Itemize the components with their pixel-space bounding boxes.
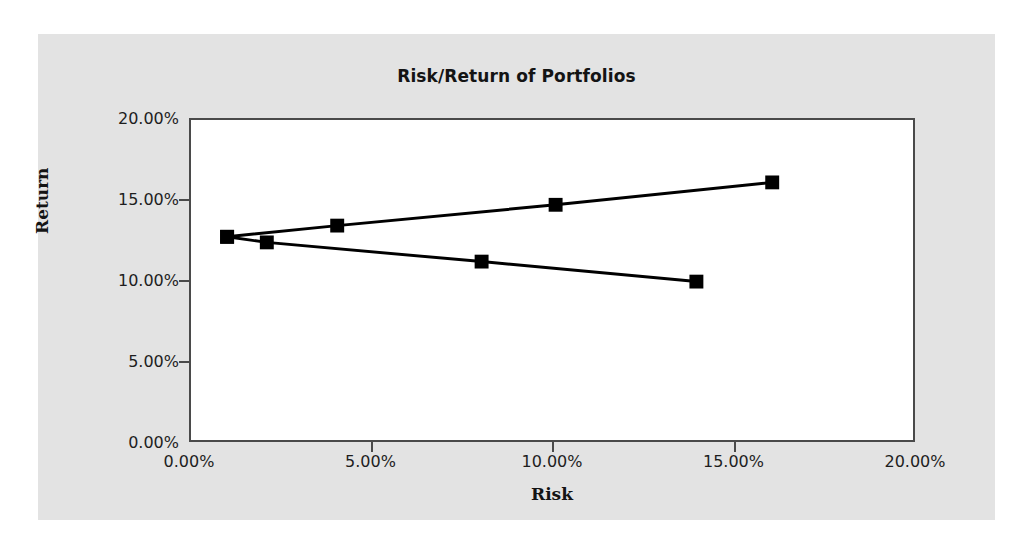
series-line [227,237,696,282]
y-tick-label: 5.00% [128,352,179,371]
data-point-marker [220,230,234,244]
data-point-marker [330,219,344,233]
data-point-marker [260,235,274,249]
x-tick-mark [734,442,736,452]
y-tick-label: 10.00% [118,271,179,290]
y-tick-mark [179,280,189,282]
x-tick-label: 20.00% [884,452,945,471]
data-series [220,230,703,289]
x-tick-label: 10.00% [521,452,582,471]
y-tick-label: 15.00% [118,190,179,209]
chart-panel: Risk/Return of Portfolios 0.00%5.00%10.0… [38,34,995,520]
x-tick-label: 0.00% [164,452,215,471]
x-axis-tick-labels: 0.00%5.00%10.00%15.00%20.00% [38,452,995,476]
data-point-marker [689,275,703,289]
data-point-marker [549,198,563,212]
x-tick-label: 5.00% [345,452,396,471]
y-tick-label: 0.00% [128,433,179,452]
data-point-marker [765,175,779,189]
plot-series-svg [191,120,913,440]
y-tick-label: 20.00% [118,109,179,128]
plot-area [189,118,915,442]
y-axis-title: Return [32,168,52,234]
y-axis-tick-labels: 0.00%5.00%10.00%15.00%20.00% [48,118,179,442]
data-point-marker [475,255,489,269]
chart-title: Risk/Return of Portfolios [38,66,995,86]
y-tick-mark [179,361,189,363]
x-tick-mark [371,442,373,452]
data-series [220,175,779,243]
y-tick-mark [179,199,189,201]
x-tick-label: 15.00% [703,452,764,471]
series-line [227,182,772,236]
x-axis-title: Risk [189,484,915,504]
x-tick-mark [552,442,554,452]
